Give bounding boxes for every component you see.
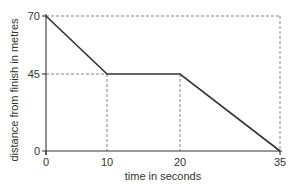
guide-lines (46, 16, 280, 151)
y-tick-label-45: 45 (28, 68, 40, 80)
y-tick-label-0: 0 (34, 145, 40, 157)
x-tick-label-0: 0 (43, 156, 49, 168)
distance-time-chart: 70 45 0 0 10 20 35 time in seconds dista… (0, 0, 293, 184)
x-axis-label: time in seconds (125, 170, 202, 182)
x-tick-label-20: 20 (174, 156, 186, 168)
distance-series-line (46, 16, 280, 151)
x-tick-label-10: 10 (101, 156, 113, 168)
axes (42, 14, 282, 155)
y-tick-label-70: 70 (28, 10, 40, 22)
x-tick-label-35: 35 (274, 156, 286, 168)
y-axis-label: distance from finish in metres (8, 18, 20, 162)
